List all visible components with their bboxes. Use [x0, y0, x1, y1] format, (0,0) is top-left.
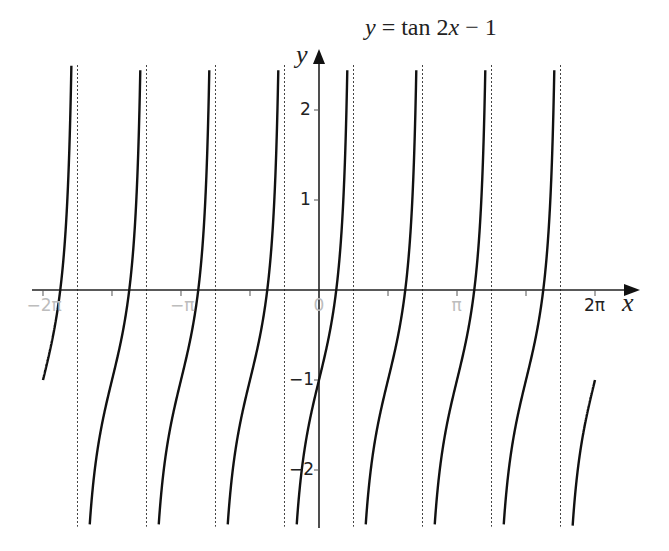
curve-branch [43, 66, 71, 380]
y-tick-label: 1 [300, 189, 311, 209]
x-tick-label: 0 [314, 295, 325, 315]
curve-branch [573, 380, 595, 526]
y-tick-label: −2 [289, 459, 314, 479]
x-tick-label: π [452, 295, 462, 315]
y-tick-label: 2 [300, 99, 311, 119]
curve-branch [90, 70, 141, 524]
x-axis-label: x [622, 288, 634, 318]
x-tick-label: −π [170, 295, 194, 315]
x-tick-label: −2π [26, 295, 61, 315]
curve-branch [228, 70, 279, 524]
curve-branch [366, 70, 417, 524]
title-mid: = tan 2 [376, 14, 449, 40]
y-axis-label: y [296, 40, 308, 70]
y-tick-label: −1 [289, 369, 314, 389]
y-axis-arrow-icon [313, 49, 325, 64]
title-x: x [449, 14, 460, 40]
title-y: y [365, 14, 376, 40]
tangent-plot [0, 0, 669, 551]
title-tail: − 1 [459, 14, 497, 40]
x-tick-label: 2π [584, 295, 605, 315]
chart-title: y = tan 2x − 1 [365, 14, 497, 41]
curve-branch [504, 70, 555, 524]
